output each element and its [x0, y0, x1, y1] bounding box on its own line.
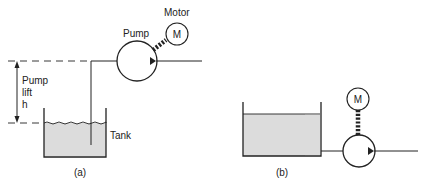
lift-label-line3: h: [22, 99, 28, 110]
lift-label-line1: Pump: [22, 75, 49, 86]
caption-a: (a): [74, 167, 86, 178]
tank-liquid-fill-b: [244, 115, 320, 155]
arrowhead-up-icon: [15, 61, 20, 68]
pump-diagram: Pump lift h Tank Pump M Motor (a): [0, 0, 430, 185]
motor-label: Motor: [164, 7, 190, 18]
caption-b: (b): [276, 167, 288, 178]
tank-liquid: [44, 123, 106, 156]
lift-label-line2: lift: [22, 87, 32, 98]
arrowhead-down-icon: [15, 116, 20, 123]
motor-symbol-b: M: [354, 94, 362, 105]
motor-symbol: M: [173, 29, 181, 40]
figure-a: Pump lift h Tank Pump M Motor (a): [8, 7, 202, 178]
shaft-coupling: [153, 40, 166, 50]
figure-b: M (b): [243, 88, 418, 178]
pump-label: Pump: [123, 28, 150, 39]
tank-label: Tank: [110, 130, 132, 141]
